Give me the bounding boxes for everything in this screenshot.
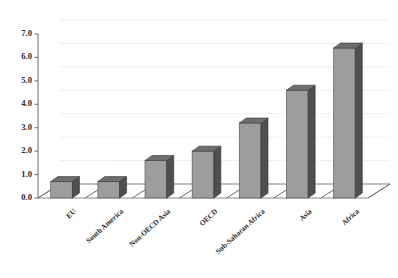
bar-chart: 0.01.02.03.04.05.06.07.0EUSouth AmericaN… xyxy=(0,0,398,278)
y-axis-tick-label: 3.0 xyxy=(21,122,32,132)
bar-side-face xyxy=(355,43,362,198)
bar-front-face xyxy=(51,182,73,198)
x-axis-category-label: Non-OECD Asia xyxy=(127,207,172,249)
bar-group xyxy=(192,146,221,198)
bar-group xyxy=(286,85,315,198)
y-axis-tick-label: 4.0 xyxy=(21,98,32,108)
x-axis-category-label: OECD xyxy=(197,207,219,228)
x-axis-category-label: South America xyxy=(84,207,125,245)
y-axis-tick-label: 2.0 xyxy=(21,145,32,155)
x-axis-category-label: Sub-Saharan Africa xyxy=(214,207,267,256)
bar-front-face xyxy=(98,182,120,198)
bar-group xyxy=(51,177,80,198)
bar-front-face xyxy=(145,161,167,198)
bar-front-face xyxy=(334,48,356,198)
y-axis-tick-label: 6.0 xyxy=(21,51,32,61)
bar-side-face xyxy=(214,146,221,198)
bar-front-face xyxy=(192,151,214,198)
y-axis-tick-label: 0.0 xyxy=(21,192,32,202)
bar-front-face xyxy=(286,90,308,198)
y-axis-tick-label: 1.0 xyxy=(21,169,32,179)
x-axis-category-label: Asia xyxy=(297,207,314,223)
y-axis-tick-label: 5.0 xyxy=(21,75,32,85)
bar-group xyxy=(239,118,268,198)
bar-side-face xyxy=(261,118,268,198)
x-axis-category-label: EU xyxy=(64,206,78,220)
chart-container: 0.01.02.03.04.05.06.07.0EUSouth AmericaN… xyxy=(0,0,398,278)
bar-group xyxy=(145,156,174,198)
bar-side-face xyxy=(167,156,174,198)
y-axis-tick-label: 7.0 xyxy=(21,28,32,38)
bar-side-face xyxy=(308,85,315,198)
x-axis-category-label: Africa xyxy=(340,207,361,227)
bar-group xyxy=(334,43,363,198)
x-axis-tick xyxy=(368,184,390,198)
bar-front-face xyxy=(239,123,261,198)
bar-group xyxy=(98,177,127,198)
